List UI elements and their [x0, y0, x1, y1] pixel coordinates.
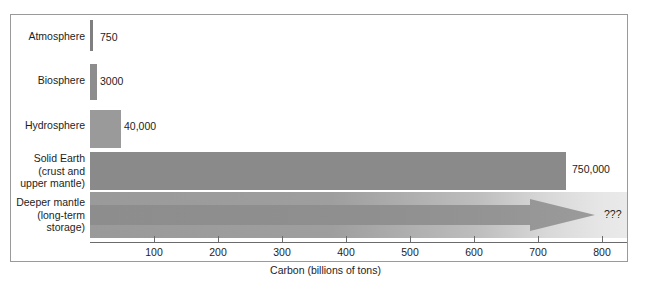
category-label-deeper-mantle: Deeper mantle (long-term storage): [0, 196, 85, 234]
bar-biosphere: [90, 64, 97, 100]
bar-value-deeper-mantle: ???: [604, 208, 622, 220]
bar-value-biosphere: 3000: [100, 75, 123, 87]
x-tick-mark: [282, 236, 283, 242]
x-tick-label: 800: [593, 246, 611, 258]
bar-value-hydrosphere: 40,000: [124, 120, 156, 132]
bar-value-solid-earth: 750,000: [572, 163, 610, 175]
x-tick-label: 600: [465, 246, 483, 258]
x-tick-mark: [602, 236, 603, 242]
bar-deeper-mantle-arrow: [90, 199, 595, 231]
x-tick-label: 700: [529, 246, 547, 258]
bar-hydrosphere: [90, 110, 121, 148]
bar-solid-earth: [90, 152, 566, 190]
x-tick-label: 100: [145, 246, 163, 258]
x-axis-line: [90, 242, 627, 243]
x-axis-title: Carbon (billions of tons): [0, 264, 651, 276]
x-tick-label: 500: [401, 246, 419, 258]
carbon-reservoir-bar-chart: Atmosphere Biosphere Hydrosphere Solid E…: [0, 0, 651, 285]
category-label-atmosphere: Atmosphere: [0, 30, 85, 43]
x-tick-label: 300: [273, 246, 291, 258]
bar-value-atmosphere: 750: [100, 31, 118, 43]
category-label-biosphere: Biosphere: [0, 74, 85, 87]
x-tick-label: 400: [337, 246, 355, 258]
bar-atmosphere: [90, 20, 93, 51]
category-label-solid-earth: Solid Earth (crust and upper mantle): [0, 152, 85, 190]
x-tick-mark: [474, 236, 475, 242]
x-tick-mark: [410, 236, 411, 242]
x-tick-label: 200: [209, 246, 227, 258]
x-tick-mark: [538, 236, 539, 242]
x-tick-mark: [346, 236, 347, 242]
x-tick-mark: [154, 236, 155, 242]
category-label-hydrosphere: Hydrosphere: [0, 119, 85, 132]
x-tick-mark: [218, 236, 219, 242]
